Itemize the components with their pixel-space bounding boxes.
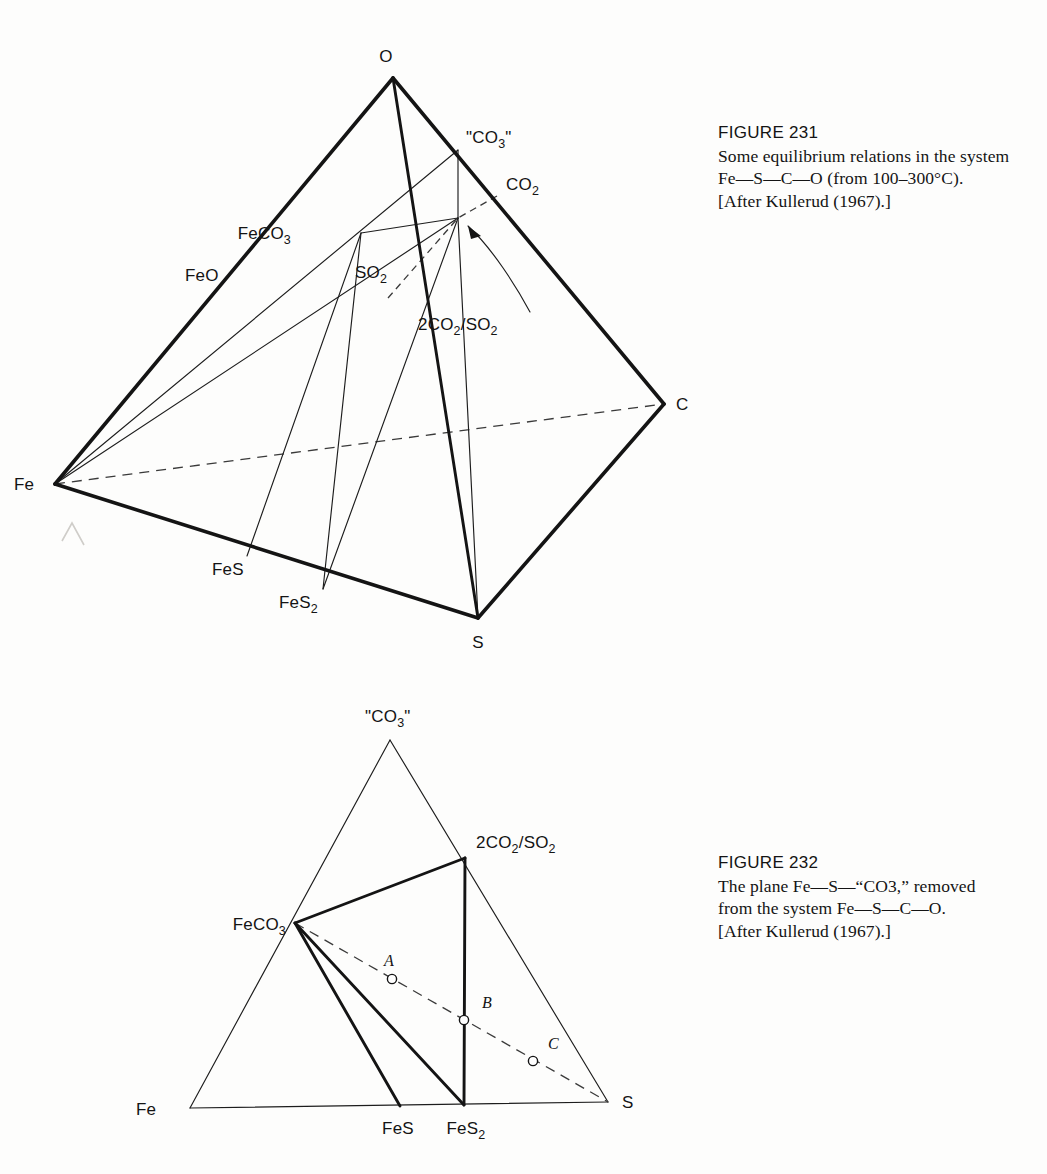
figure-231-caption-line-1: Some equilibrium relations in the system	[718, 145, 1028, 167]
point-label-2co2-so2: 2CO2/SO2	[418, 315, 498, 338]
figure-231-label: FIGURE 231	[718, 122, 1028, 144]
edge-fe-c-hidden	[55, 404, 664, 484]
dashed-join-feco3-s	[295, 923, 608, 1102]
tri-edge-co3-s	[390, 740, 608, 1102]
vertex-label-o: O	[379, 47, 392, 66]
vertex-label-fe-232: Fe	[136, 1100, 156, 1119]
vertex-label-s: S	[472, 633, 484, 652]
line-fe-junction	[55, 218, 458, 484]
line-co2-dashed	[458, 196, 497, 218]
vertex-label-s-232: S	[622, 1093, 634, 1112]
edge-fe-s	[55, 484, 478, 618]
marked-point-b	[459, 1015, 468, 1024]
line-fe-co3	[55, 150, 458, 484]
vertex-label-co3-232: "CO3"	[365, 707, 411, 730]
point-label-2co2so2-232: 2CO2/SO2	[476, 833, 556, 856]
point-label-feco3-232: FeCO3	[233, 915, 286, 938]
tie-feco3-fes	[295, 923, 400, 1106]
point-label-fes2: FeS2	[279, 593, 318, 616]
vertex-label-c: C	[676, 395, 688, 414]
vertex-label-fe: Fe	[14, 475, 34, 494]
point-label-feo: FeO	[185, 266, 219, 285]
edge-o-s	[393, 78, 478, 618]
edge-c-s	[478, 404, 664, 618]
marked-point-c	[528, 1056, 537, 1065]
marked-point-a	[387, 974, 396, 983]
marked-point-label-a: A	[383, 952, 394, 969]
point-label-fes: FeS	[212, 560, 244, 579]
line-feco3-junction	[361, 218, 458, 233]
tri-edge-co3-fe	[190, 740, 390, 1108]
scan-artifact	[62, 523, 84, 545]
figure-232-diagram: "CO3" Fe S FeCO3 2CO2/SO2 FeS FeS2 A B C	[110, 690, 670, 1160]
figure-232-label: FIGURE 232	[718, 852, 1028, 874]
figure-232-caption-line-3: [After Kullerud (1967).]	[718, 920, 1028, 942]
line-so2-dashed	[388, 218, 458, 298]
tie-2co2so2-fes2	[464, 858, 465, 1105]
figure-231-caption: FIGURE 231 Some equilibrium relations in…	[718, 122, 1028, 212]
figure-231-caption-line-3: [After Kullerud (1967).]	[718, 190, 1028, 212]
figure-231-diagram: O Fe C S FeO "CO3" CO2 FeCO3 SO2 FeS FeS…	[0, 0, 720, 680]
figure-231-caption-line-2: Fe—S—C—O (from 100–300°C).	[718, 167, 1028, 189]
point-label-feco3: FeCO3	[238, 224, 291, 247]
figure-232-caption: FIGURE 232 The plane Fe—S—“CO3,” removed…	[718, 852, 1028, 942]
figure-232-caption-line-1: The plane Fe—S—“CO3,” removed	[718, 875, 1028, 897]
edge-o-c	[393, 78, 664, 404]
marked-point-label-b: B	[482, 994, 492, 1011]
edge-o-fe	[55, 78, 393, 484]
tie-feco3-fes2	[295, 923, 464, 1105]
point-label-co2: CO2	[506, 175, 539, 198]
figure-page: O Fe C S FeO "CO3" CO2 FeCO3 SO2 FeS FeS…	[0, 0, 1047, 1174]
figure-232-caption-line-2: from the system Fe—S—C—O.	[718, 897, 1028, 919]
marked-point-label-c: C	[548, 1035, 559, 1052]
point-label-fes2-232: FeS2	[447, 1119, 486, 1142]
callout-arrow-curve	[468, 226, 530, 312]
point-label-fes-232: FeS	[382, 1119, 414, 1138]
point-label-co3: "CO3"	[466, 128, 512, 151]
